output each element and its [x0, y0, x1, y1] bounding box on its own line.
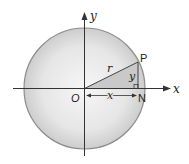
origin-label: O — [71, 92, 80, 104]
x-axis-arrow-icon — [163, 86, 171, 92]
circle-diagram: y x O P N r y x — [0, 0, 189, 164]
x-axis-label: x — [173, 82, 180, 96]
radius-label: r — [107, 62, 113, 75]
point-p-label: P — [140, 52, 147, 64]
y-axis-label: y — [89, 9, 97, 23]
adjacent-label: x — [107, 89, 114, 102]
point-n-label: N — [138, 92, 146, 104]
opposite-label: y — [128, 70, 136, 83]
y-axis-arrow-icon — [82, 12, 88, 20]
